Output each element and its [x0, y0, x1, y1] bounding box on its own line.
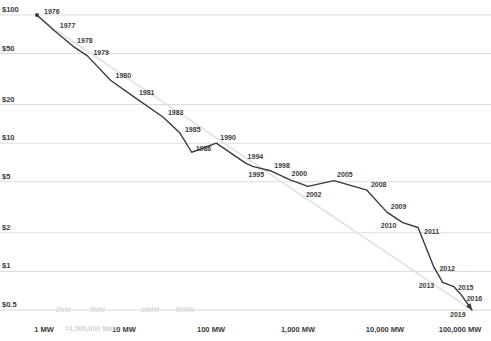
data-point-label: 2012	[439, 265, 455, 272]
y-axis-tick-label: $50	[2, 44, 15, 53]
x-axis-tick-label: 1,000 MW	[281, 325, 315, 334]
data-point-label: 2005	[337, 170, 353, 177]
data-point-label: 2013	[419, 282, 435, 289]
trend-line-series	[37, 17, 472, 310]
y-axis-tick-label: $10	[2, 133, 15, 142]
data-point-label: 1986	[196, 145, 212, 152]
arrow-head-icon	[466, 303, 472, 310]
x-axis-tick-label: 100,000 MW	[439, 325, 482, 334]
data-point-label: 2009	[391, 203, 407, 210]
data-point-label: 1994	[248, 153, 264, 160]
data-point-label: 2010	[381, 221, 397, 228]
data-point-label: 1990	[220, 134, 236, 141]
data-point-label: 1977	[60, 22, 76, 29]
data-point-label: 1995	[249, 171, 265, 178]
data-point-label: 1976	[44, 8, 60, 15]
y-axis-tick-label: $1	[2, 261, 10, 270]
chart-canvas	[0, 0, 491, 341]
trend-line	[37, 17, 472, 310]
data-point-label: 1985	[185, 126, 201, 133]
data-point-label: 1980	[116, 72, 132, 79]
data-point-label: 1978	[77, 37, 93, 44]
y-axis-tick-label: $5	[2, 172, 10, 181]
y-axis-tick-label: $0.5	[2, 300, 17, 309]
x-axis-tick-label: 100 MW	[197, 325, 225, 334]
data-point-label: 2019	[450, 311, 466, 318]
x-axis-minor-tick-label: 50MW	[175, 306, 194, 313]
x-axis-minor-tick-label: 20MW	[141, 306, 160, 313]
y-axis-tick-label: $100	[2, 5, 19, 14]
x-axis-minor-tick-label: 2MW	[56, 306, 71, 313]
data-point-label: 2011	[424, 227, 439, 234]
start-point-marker	[35, 13, 39, 17]
x-axis-tick-label: 1 MW	[34, 325, 54, 334]
x-axis-unit-note-text: =1,000,000 Watt	[65, 325, 117, 332]
data-point-label: 2000	[292, 169, 308, 176]
data-point-label: 2008	[371, 181, 387, 188]
y-axis-tick-label: $2	[2, 223, 10, 232]
data-point-label: 2016	[467, 295, 483, 302]
y-axis-tick-label: $20	[2, 95, 15, 104]
data-point-label: 1981	[139, 88, 155, 95]
data-point-label: 2002	[306, 191, 322, 198]
data-point-label: 2015	[458, 283, 474, 290]
data-point-label: 1979	[93, 48, 109, 55]
solar-price-learning-curve-chart: $100$50$20$10$5$2$1$0.5 1 MW10 MW100 MW1…	[0, 0, 491, 341]
x-axis-tick-label: 10,000 MW	[366, 325, 404, 334]
data-point-label: 1998	[274, 161, 290, 168]
x-axis-minor-tick-label: 5MW	[90, 306, 105, 313]
data-point-label: 1983	[168, 109, 184, 116]
